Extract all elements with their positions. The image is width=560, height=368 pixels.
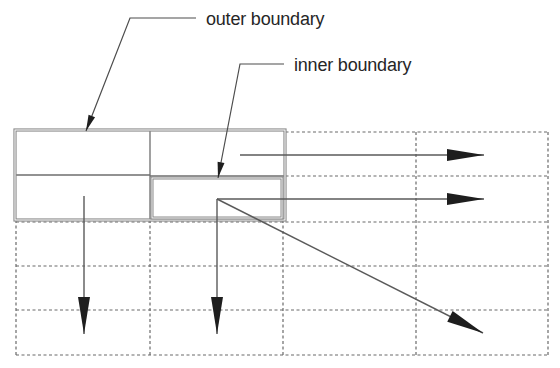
arrow-diagonal-shaft (217, 199, 483, 333)
outer-boundary-label: outer boundary (206, 10, 324, 28)
boundary-diagram (0, 0, 560, 368)
arrow-diagonal-head-icon (447, 311, 483, 333)
arrow-down-left-head-icon (78, 297, 90, 334)
inner-boundary-label: inner boundary (294, 56, 411, 74)
arrow-down-middle-head-icon (211, 297, 223, 334)
outer-leader-line (86, 18, 196, 131)
arrow-right-middle-head-icon (447, 193, 484, 205)
arrow-right-top-head-icon (447, 149, 484, 161)
